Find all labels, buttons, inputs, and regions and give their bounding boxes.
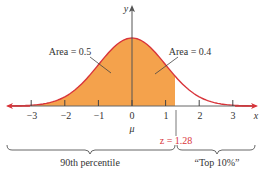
x-axis-label: x [253,110,259,121]
mu-label: μ [128,123,134,134]
tick-label: −1 [94,110,105,121]
tick-label: −3 [27,110,38,121]
top-percent-label: “Top 10%” [194,157,239,168]
normal-curve-diagram: y x −3 −2 −1 0 1 2 3 μ z = 1.28 Area = 0… [0,0,262,177]
y-axis-label: y [123,3,129,14]
area-right-label: Area = 0.4 [169,46,212,57]
percentile-label: 90th percentile [60,157,120,168]
tick-label: 0 [130,110,135,121]
shaded-area [8,38,175,106]
top-brace [177,145,255,154]
area-left-label: Area = 0.5 [49,46,92,57]
tick-label: 2 [198,110,203,121]
percentile-brace [7,145,175,154]
tick-label: 3 [231,110,236,121]
z-value-label: z = 1.28 [160,135,193,146]
tick-label: 1 [164,110,169,121]
tick-label: −2 [61,110,72,121]
